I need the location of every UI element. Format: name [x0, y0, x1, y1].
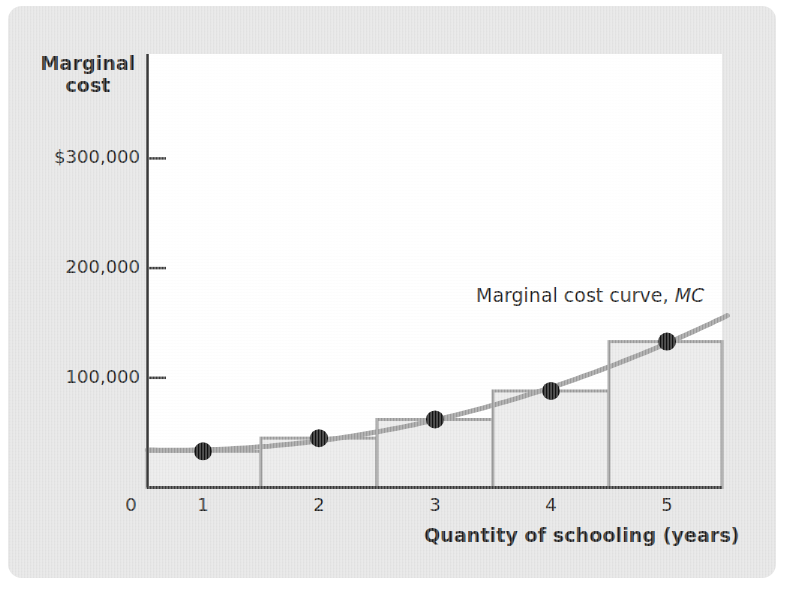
y-axis-title-line-1: Marginal	[36, 52, 140, 74]
curve-annotation-symbol: MC	[675, 284, 705, 306]
curve-annotation-label: Marginal cost curve, MC	[476, 284, 704, 306]
bar-4	[493, 391, 609, 488]
data-point-4	[542, 382, 560, 400]
x-tick-label-0: 0	[111, 494, 151, 515]
data-point-2	[310, 429, 328, 447]
y-axis-ticks	[147, 158, 166, 377]
y-tick-label-0: $300,000	[20, 146, 140, 167]
x-axis-title: Quantity of schooling (years)	[424, 524, 740, 546]
x-tick-label-5: 5	[647, 494, 687, 515]
data-point-1	[194, 442, 212, 460]
y-tick-label-1: 200,000	[20, 256, 140, 277]
x-tick-label-4: 4	[531, 494, 571, 515]
y-axis-title-line-2: cost	[36, 74, 140, 96]
x-tick-label-1: 1	[183, 494, 223, 515]
y-tick-label-2: 100,000	[20, 366, 140, 387]
curve-annotation-text: Marginal cost curve,	[476, 284, 675, 306]
x-tick-label-2: 2	[299, 494, 339, 515]
y-axis-title: Marginal cost	[36, 52, 140, 97]
chart-figure: Marginal cost Quantity of schooling (yea…	[0, 0, 796, 595]
bar-5	[609, 342, 722, 488]
x-tick-label-3: 3	[415, 494, 455, 515]
data-point-3	[426, 410, 444, 428]
data-point-5	[658, 333, 676, 351]
